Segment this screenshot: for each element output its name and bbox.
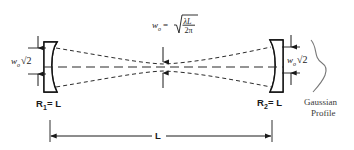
radicand-numerator: λL <box>183 17 192 26</box>
left-mirror-label-value: = L <box>47 98 61 109</box>
cavity-figure-canvas: w o = λL 2π w o √2 w o <box>0 0 354 150</box>
waist-formula-equals: = <box>163 20 168 30</box>
radicand-denominator: 2π <box>185 26 193 35</box>
waist-formula-group: w o = λL 2π <box>152 15 198 35</box>
cavity-length-dimension: L <box>50 120 272 142</box>
left-mirror-label: R 1 = L <box>36 98 61 111</box>
gaussian-profile-label: Gaussian Profile <box>304 97 337 118</box>
gaussian-profile-line2: Profile <box>311 108 336 118</box>
cavity-length-label: L <box>155 130 161 141</box>
right-mirror-label-symbol: R <box>257 97 264 108</box>
left-spot-size-measure: w o √2 <box>11 36 46 86</box>
right-spot-size-measure: w o √2 <box>282 35 308 85</box>
left-spot-subscript: o <box>17 62 20 68</box>
left-mirror-label-symbol: R <box>36 98 43 109</box>
right-spot-subscript: o <box>293 61 296 67</box>
gaussian-profile-line1: Gaussian <box>304 97 337 107</box>
right-spot-factor: √2 <box>297 54 308 65</box>
right-mirror-label-value: = L <box>268 97 282 108</box>
left-spot-factor: √2 <box>21 55 32 66</box>
gaussian-profile-curve <box>311 40 326 92</box>
right-mirror-label: R 2 = L <box>257 97 282 110</box>
optical-cavity-diagram: w o = λL 2π w o √2 w o <box>0 0 354 150</box>
waist-formula-subscript: o <box>158 26 161 32</box>
right-mirror-outline <box>270 40 283 92</box>
